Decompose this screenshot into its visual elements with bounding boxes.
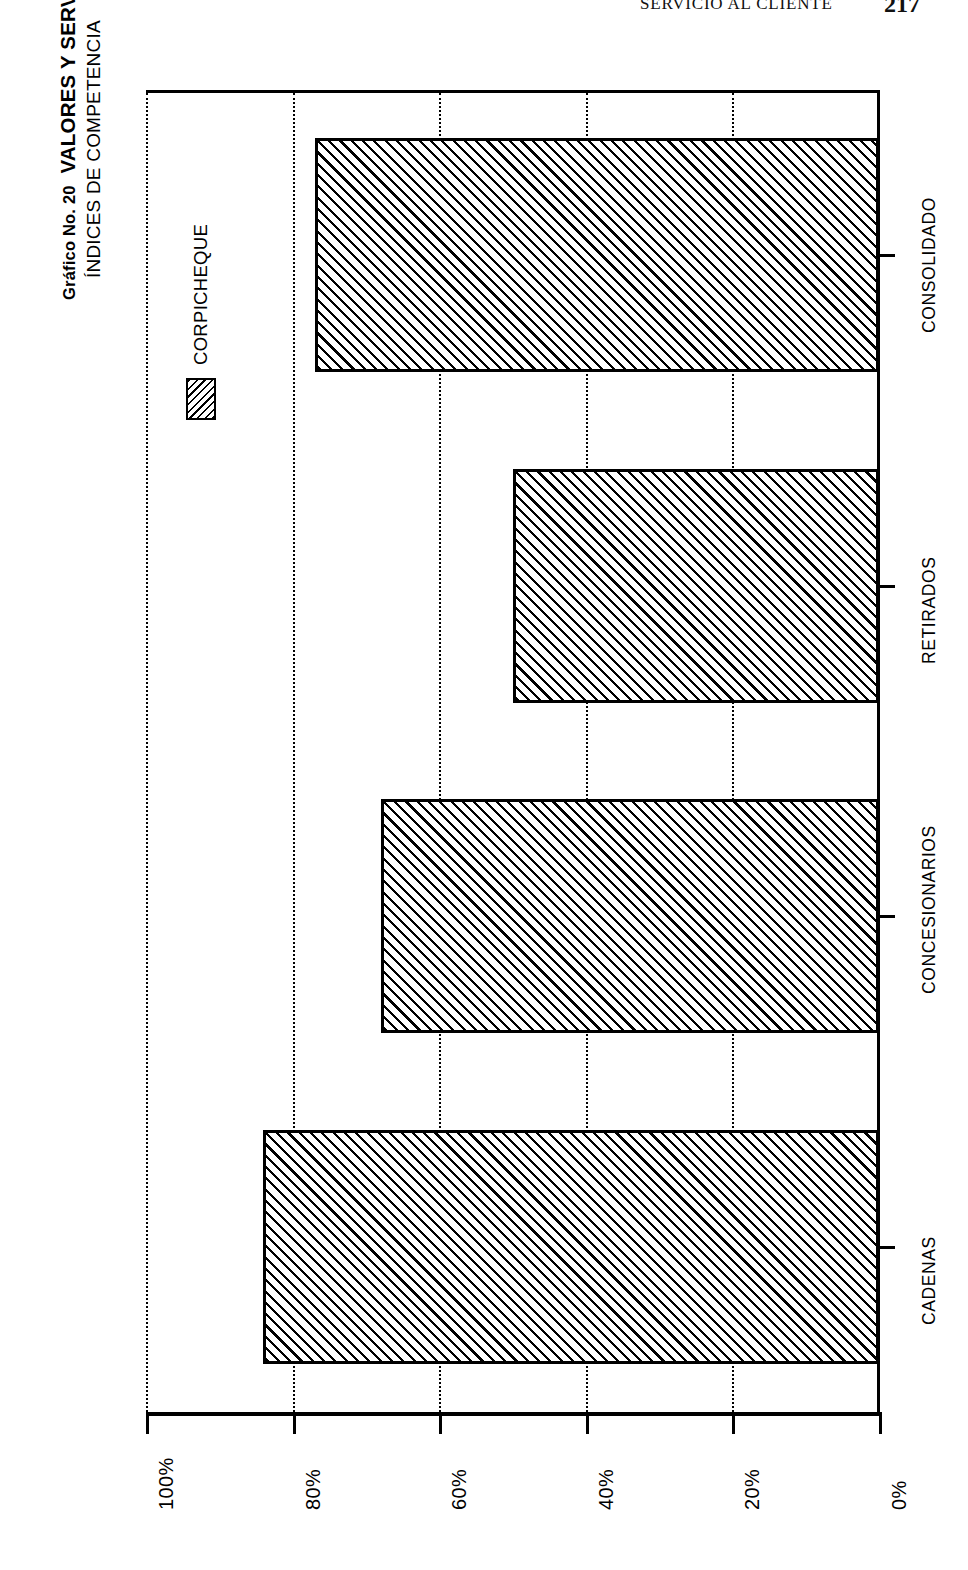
gridline-100 [146,93,148,1412]
category-tick-concesionarios [879,915,895,918]
plot-top-rule [146,90,879,93]
value-label-80: 80% [302,1469,325,1510]
plot-area [146,90,879,1412]
category-tick-consolidado [879,254,895,257]
category-label-retirados: RETIRADOS [919,556,940,664]
category-label-cadenas: CADENAS [919,1236,940,1325]
value-tick-60 [439,1412,442,1434]
value-tick-20 [732,1412,735,1434]
bar-cadenas [263,1130,879,1364]
bar-retirados [513,469,880,703]
bar-concesionarios [381,799,879,1033]
value-tick-100 [146,1412,149,1434]
chart-page: SERVICIO AL CLIENTE 217 Gráfico No. 20 V… [0,0,968,1570]
category-tick-cadenas [879,1246,895,1249]
category-tick-retirados [879,585,895,588]
chart-figure: Gráfico No. 20 VALORES Y SERVICIOS S.A. … [0,0,968,1570]
chart-title-main: VALORES Y SERVICIOS S.A. [56,0,79,174]
bar-consolidado [315,138,879,372]
chart-title-block: Gráfico No. 20 VALORES Y SERVICIOS S.A. … [55,0,111,300]
value-label-0: 0% [888,1480,911,1510]
chart-subtitle: ÍNDICES DE COMPETENCIA [82,0,106,300]
value-tick-40 [586,1412,589,1434]
category-label-consolidado: CONSOLIDADO [919,197,940,333]
value-axis-line [146,1412,879,1416]
chart-title-prefix: Gráfico No. 20 [60,185,78,300]
chart-title: Gráfico No. 20 VALORES Y SERVICIOS S.A. [55,0,82,300]
value-tick-0 [879,1412,882,1434]
value-label-40: 40% [595,1469,618,1510]
value-tick-80 [293,1412,296,1434]
value-label-20: 20% [741,1469,764,1510]
value-label-60: 60% [448,1469,471,1510]
value-label-100: 100% [155,1457,178,1510]
category-label-concesionarios: CONCESIONARIOS [919,825,940,994]
